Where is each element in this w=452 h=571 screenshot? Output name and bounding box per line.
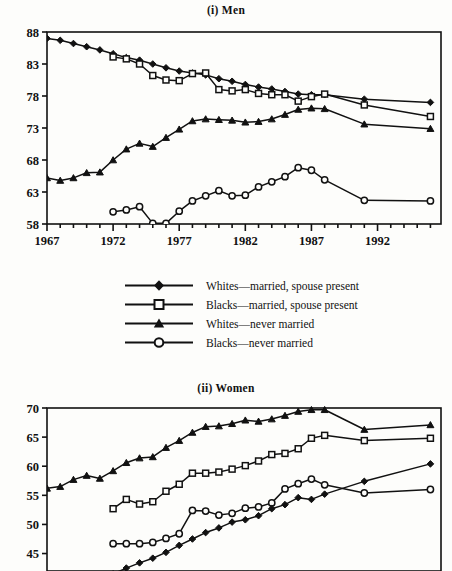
legend-item-whites-never: Whites—never married: [122, 314, 359, 333]
svg-text:1967: 1967: [35, 234, 60, 248]
svg-text:58: 58: [27, 218, 40, 232]
svg-text:83: 83: [27, 58, 40, 72]
legend-label: Blacks—married, spouse present: [196, 299, 358, 311]
svg-text:1982: 1982: [233, 234, 258, 248]
svg-text:63: 63: [27, 186, 40, 200]
legend-marker-filled-diamond: [122, 276, 196, 295]
legend-item-blacks-never: Blacks—never married: [122, 333, 359, 352]
svg-text:60: 60: [27, 460, 40, 474]
legend-marker-open-square: [122, 295, 196, 314]
svg-text:78: 78: [27, 90, 40, 104]
svg-text:73: 73: [27, 122, 40, 136]
svg-text:45: 45: [27, 547, 40, 561]
svg-text:1992: 1992: [365, 234, 390, 248]
svg-text:1987: 1987: [299, 234, 324, 248]
legend-item-whites-married: Whites—married, spouse present: [122, 276, 359, 295]
men-panel-title: (i) Men: [0, 4, 452, 16]
svg-text:68: 68: [27, 154, 40, 168]
legend-label: Blacks—never married: [196, 337, 313, 349]
svg-text:1972: 1972: [101, 234, 126, 248]
legend-marker-filled-triangle: [122, 314, 196, 333]
legend-marker-open-circle: [122, 333, 196, 352]
legend-item-blacks-married: Blacks—married, spouse present: [122, 295, 359, 314]
svg-text:1977: 1977: [167, 234, 192, 248]
legend-label: Whites—never married: [196, 318, 314, 330]
svg-text:50: 50: [27, 518, 40, 532]
figure-root: (i) Men 58636873788388196719721977198219…: [0, 0, 452, 571]
men-line-chart: 58636873788388196719721977198219871992: [0, 18, 452, 268]
svg-text:55: 55: [27, 489, 40, 503]
svg-text:65: 65: [27, 431, 40, 445]
legend-label: Whites—married, spouse present: [196, 280, 359, 292]
svg-text:88: 88: [27, 26, 40, 40]
women-line-chart: 455055606570: [0, 398, 452, 571]
women-panel-title: (ii) Women: [0, 382, 452, 394]
svg-text:70: 70: [27, 402, 40, 416]
chart-legend: Whites—married, spouse present Blacks—ma…: [122, 276, 359, 352]
